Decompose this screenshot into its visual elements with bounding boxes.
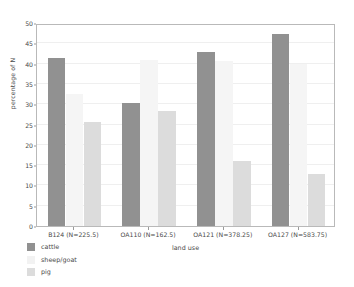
y-tick-label: 45 [7, 41, 33, 47]
legend-item-pig: pig [27, 266, 77, 279]
legend-label: cattle [41, 243, 59, 251]
bar-cattle-group-3 [197, 52, 215, 226]
legend-swatch-sheepgoat-icon [27, 256, 35, 264]
y-tick-label: 25 [7, 122, 33, 128]
bar-pig-group-2 [158, 111, 176, 226]
y-tick-label: 15 [7, 163, 33, 169]
x-tick-mark [73, 227, 74, 230]
legend-item-cattle: cattle [27, 241, 77, 254]
y-tick-label: 10 [7, 183, 33, 189]
y-tick-label: 20 [7, 143, 33, 149]
legend-swatch-cattle-icon [27, 243, 35, 251]
y-tick-label: 5 [7, 204, 33, 210]
y-tick-label: 40 [7, 61, 33, 67]
bar-sheepgoat-group-2 [140, 60, 158, 226]
bar-sheepgoat-group-1 [66, 94, 84, 226]
bar-pig-group-1 [84, 122, 102, 226]
bar-cattle-group-4 [272, 34, 290, 226]
plot-area [36, 24, 335, 227]
legend-label: pig [41, 268, 51, 276]
chart-figure: percentage of N 05101520253035404550 B12… [0, 0, 354, 287]
legend-label: sheep/goat [41, 256, 77, 264]
x-tick-label: OA127 (N=583.75) [268, 231, 327, 238]
x-tick-label: OA110 (N=162.5) [121, 231, 176, 238]
y-tick-label: 0 [7, 224, 33, 230]
y-tick-label: 50 [7, 21, 33, 27]
grid-line [37, 42, 334, 43]
bar-cattle-group-1 [48, 58, 66, 226]
legend-swatch-pig-icon [27, 268, 35, 276]
x-tick-mark [298, 227, 299, 230]
bar-sheepgoat-group-3 [215, 61, 233, 226]
x-tick-mark [223, 227, 224, 230]
bar-pig-group-4 [308, 174, 326, 226]
x-tick-label: OA121 (N=378.25) [193, 231, 252, 238]
bar-sheepgoat-group-4 [290, 64, 308, 226]
bar-cattle-group-2 [122, 103, 140, 226]
bar-pig-group-3 [233, 161, 251, 226]
x-tick-label: B124 (N=225.5) [48, 231, 98, 238]
y-tick-label: 30 [7, 102, 33, 108]
legend-item-sheepgoat: sheep/goat [27, 254, 77, 267]
chart-legend: cattlesheep/goatpig [27, 241, 77, 279]
x-axis-label: land use [36, 244, 335, 252]
y-tick-label: 35 [7, 82, 33, 88]
x-tick-mark [148, 227, 149, 230]
